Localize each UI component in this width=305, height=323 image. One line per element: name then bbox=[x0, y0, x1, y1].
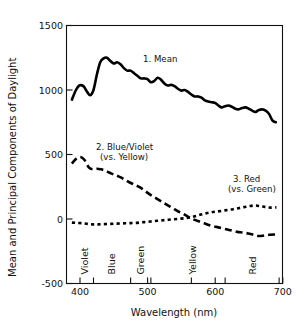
y-tick-label-0: 0 bbox=[57, 214, 63, 225]
annotation-red-line1: 3. Red bbox=[233, 174, 260, 184]
y-axis-title: Mean and Principal Components of Dayligh… bbox=[7, 58, 18, 277]
band-label-yellow: Yellow bbox=[187, 245, 198, 275]
band-label-green: Green bbox=[135, 246, 146, 275]
x-tick-label-500: 500 bbox=[139, 286, 157, 297]
chart-figure: Mean and Principal Components of Dayligh… bbox=[0, 0, 305, 323]
x-tick-label-700: 700 bbox=[274, 286, 292, 297]
band-label-red: Red bbox=[247, 256, 258, 274]
y-tick-label-500: 500 bbox=[45, 149, 63, 160]
band-label-blue: Blue bbox=[106, 253, 117, 274]
annotation-red-line2: (vs. Green) bbox=[228, 184, 276, 194]
annotation-blue-violet-line1: 2. Blue/Violet bbox=[96, 142, 154, 152]
y-tick-label-minus500: -500 bbox=[41, 278, 63, 289]
annotation-mean: 1. Mean bbox=[143, 54, 177, 64]
x-axis-title: Wavelength (nm) bbox=[131, 307, 217, 318]
x-tick-label-400: 400 bbox=[71, 286, 89, 297]
band-label-violet: Violet bbox=[79, 247, 90, 274]
x-tick-label-600: 600 bbox=[206, 286, 224, 297]
y-tick-label-1500: 1500 bbox=[39, 20, 63, 31]
annotation-blue-violet-line2: (vs. Yellow) bbox=[100, 152, 148, 162]
daylight-spectrum-chart: Mean and Principal Components of Dayligh… bbox=[0, 0, 305, 323]
y-tick-label-1000: 1000 bbox=[39, 85, 63, 96]
chart-background bbox=[0, 0, 305, 323]
